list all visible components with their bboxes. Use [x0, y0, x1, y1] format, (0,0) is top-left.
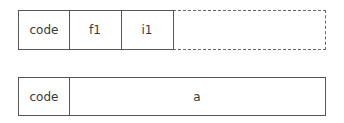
field-a: a	[69, 77, 326, 116]
field-code: code	[18, 10, 70, 50]
field-i1: i1	[121, 10, 174, 50]
field-code: code	[18, 77, 70, 116]
struct-layout-bottom: code a	[18, 77, 326, 116]
padding-region	[173, 10, 326, 50]
field-f1: f1	[69, 10, 122, 50]
struct-layout-top: code f1 i1	[18, 10, 326, 50]
